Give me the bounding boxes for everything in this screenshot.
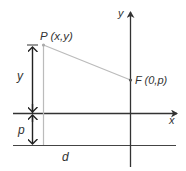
label-y-axis: y (117, 7, 125, 19)
label-dist-y: y (16, 69, 24, 83)
point-p (42, 43, 45, 46)
pf-segment (44, 45, 131, 80)
label-x-axis: x (168, 114, 175, 126)
parabola-diagram: P (x,y) F (0,p) y x y p d (0, 0, 186, 171)
label-dist-d: d (62, 150, 69, 164)
point-f (129, 78, 132, 81)
label-dist-p: p (17, 123, 25, 137)
label-focus: F (0,p) (135, 74, 168, 86)
label-point-p: P (x,y) (40, 30, 73, 42)
